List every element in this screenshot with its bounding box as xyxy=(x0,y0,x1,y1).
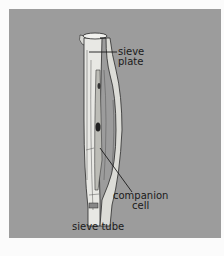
lower-sieve-plate xyxy=(89,203,98,208)
sieve-tube-label: sieve tube xyxy=(72,222,124,232)
plastid xyxy=(98,83,101,89)
companion-cell-label: companion cell xyxy=(113,191,168,211)
sieve-plate-label: sieve plate xyxy=(118,47,144,67)
phloem-illustration xyxy=(0,0,224,256)
nucleus xyxy=(96,123,101,132)
